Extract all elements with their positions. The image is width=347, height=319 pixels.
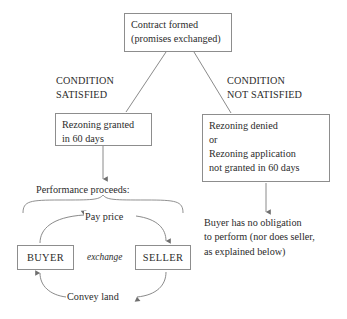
label-performance-proceeds: Performance proceeds: bbox=[36, 183, 186, 197]
label-no-obligation: Buyer has no obligation to perform (nor … bbox=[204, 216, 347, 259]
arc-convey-land-right bbox=[137, 272, 166, 297]
label-condition-not-satisfied: CONDITION NOT SATISFIED bbox=[227, 74, 347, 103]
arc-convey-land-left bbox=[40, 273, 66, 297]
node-rezoning-granted: Rezoning granted in 60 days bbox=[55, 113, 152, 146]
edge-contract-to-denied bbox=[194, 52, 231, 113]
edge-label-convey-land: Convey land bbox=[66, 291, 120, 302]
edge-label-exchange: exchange bbox=[87, 252, 122, 262]
arc-pay-price-left bbox=[40, 215, 84, 243]
node-buyer: BUYER bbox=[17, 245, 74, 270]
node-seller: SELLER bbox=[135, 245, 191, 270]
edge-label-pay-price: Pay price bbox=[84, 211, 124, 222]
node-rezoning-denied: Rezoning denied or Rezoning application … bbox=[202, 114, 330, 182]
arc-pay-price-right bbox=[136, 216, 166, 241]
diagram-canvas: Contract formed (promises exchanged) CON… bbox=[0, 0, 347, 319]
label-condition-satisfied: CONDITION SATISFIED bbox=[56, 74, 166, 103]
node-contract-formed: Contract formed (promises exchanged) bbox=[124, 13, 232, 52]
